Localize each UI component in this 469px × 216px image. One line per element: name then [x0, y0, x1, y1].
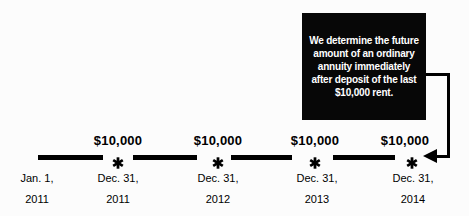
asterisk-icon — [406, 157, 418, 169]
date-text: Dec. 31, — [78, 172, 158, 184]
deposit-amount-label: $10,000 — [78, 133, 158, 148]
deposit-amount-label: $10,000 — [275, 133, 355, 148]
year-text: 2012 — [178, 193, 258, 205]
year-text: 2011 — [0, 193, 77, 205]
year-text: 2013 — [277, 193, 357, 205]
callout-text-line: amount of an ordinary — [313, 47, 414, 60]
callout-text-line: annuity immediately — [318, 60, 410, 73]
annuity-timeline-figure: We determine the future amount of an ord… — [0, 0, 469, 216]
date-text: Jan. 1, — [0, 172, 77, 184]
date-text: Dec. 31, — [373, 172, 453, 184]
deposit-amount-label: $10,000 — [178, 133, 258, 148]
arrowhead-left-icon — [423, 149, 437, 163]
connector-line-vertical — [447, 73, 450, 158]
timeline-segment-2011 — [38, 155, 103, 160]
callout-text-line: after deposit of the last — [311, 73, 416, 86]
year-text: 2011 — [78, 193, 158, 205]
timeline-segment-2012 — [133, 155, 197, 160]
asterisk-icon — [309, 157, 321, 169]
callout-text-line: We determine the future — [309, 34, 419, 47]
asterisk-icon — [112, 157, 124, 169]
date-text: Dec. 31, — [277, 172, 357, 184]
date-text: Dec. 31, — [178, 172, 258, 184]
callout-box: We determine the future amount of an ord… — [302, 13, 426, 120]
deposit-amount-label: $10,000 — [365, 133, 445, 148]
connector-line-bottom — [435, 155, 450, 158]
timeline-segment-2013 — [231, 155, 292, 160]
asterisk-icon — [212, 157, 224, 169]
callout-text-line: $10,000 rent. — [335, 86, 393, 99]
timeline-segment-2014 — [333, 155, 395, 160]
year-text: 2014 — [373, 193, 453, 205]
